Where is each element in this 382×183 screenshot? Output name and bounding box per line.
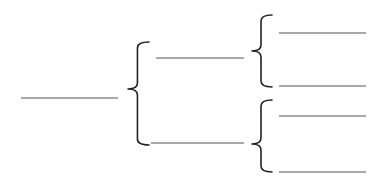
branch-1-brace-icon xyxy=(252,15,272,87)
level1-brace-icon xyxy=(128,42,149,145)
bracket-tree-diagram xyxy=(0,0,382,183)
branch-2-brace-icon xyxy=(252,100,272,172)
